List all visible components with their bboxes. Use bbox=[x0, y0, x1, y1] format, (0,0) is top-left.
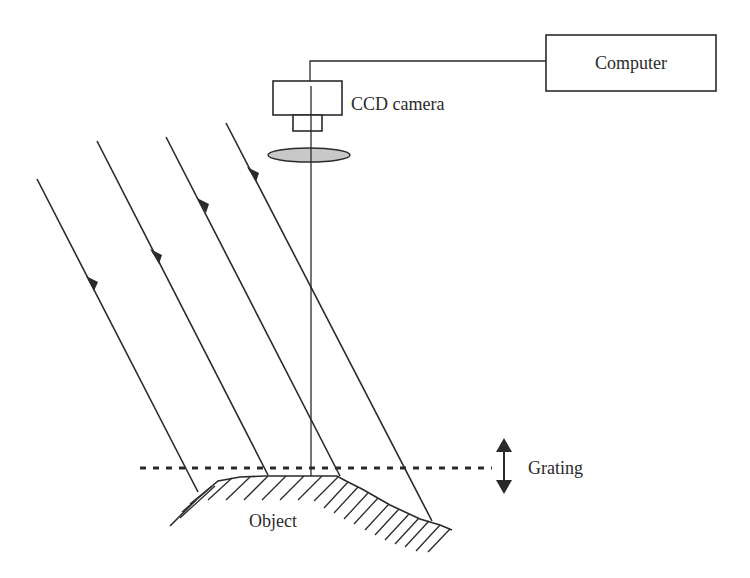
ray-2-arrowhead-icon bbox=[150, 249, 162, 264]
object-surface bbox=[170, 476, 452, 552]
computer-label: Computer bbox=[595, 53, 667, 73]
ray-4 bbox=[226, 123, 432, 521]
ccd-camera bbox=[273, 81, 342, 131]
camera-computer-cable bbox=[310, 61, 546, 81]
object-label: Object bbox=[249, 511, 297, 531]
imaging-lens bbox=[268, 148, 350, 162]
grating-label: Grating bbox=[528, 458, 583, 478]
computer-box: Computer bbox=[546, 35, 716, 91]
illumination-rays bbox=[37, 123, 432, 521]
ray-1-arrowhead-icon bbox=[86, 276, 98, 291]
grating-motion-arrow-icon bbox=[496, 438, 512, 494]
ccd-camera-label: CCD camera bbox=[351, 94, 444, 114]
ray-3 bbox=[166, 137, 340, 476]
fringe-projection-diagram: Computer CCD camera Grating bbox=[0, 0, 750, 578]
ray-1 bbox=[37, 179, 198, 492]
ray-4-arrowhead-icon bbox=[247, 167, 259, 182]
ray-2 bbox=[97, 141, 268, 475]
